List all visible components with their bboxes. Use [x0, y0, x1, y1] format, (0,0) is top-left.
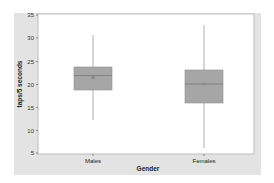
y-tick-25: 25 [27, 59, 34, 65]
x-tick-label-males: Males [85, 158, 101, 164]
y-tick-20: 20 [27, 82, 34, 88]
x-axis-title: Gender [137, 165, 160, 172]
y-tick-5: 5 [31, 150, 35, 156]
y-tick-30: 30 [27, 35, 34, 41]
y-axis-title: taps/5 seconds [16, 60, 24, 107]
y-tick-10: 10 [27, 128, 34, 134]
x-tick-label-females: Females [192, 158, 215, 164]
y-axis: 35 30 25 20 15 10 5 [27, 12, 38, 156]
y-tick-15: 15 [27, 105, 34, 111]
mean-marker [203, 83, 206, 86]
boxplot-chart: 35 30 25 20 15 10 5 taps/5 seconds Males… [0, 0, 274, 183]
y-tick-35: 35 [27, 12, 34, 18]
mean-marker [92, 76, 95, 79]
iqr-box [185, 70, 223, 103]
